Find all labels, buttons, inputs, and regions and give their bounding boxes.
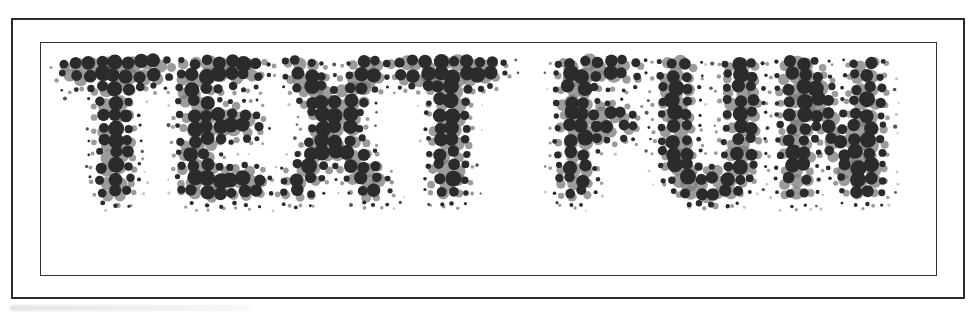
halftone-text-artwork xyxy=(0,0,974,315)
scan-artifact xyxy=(10,305,250,311)
